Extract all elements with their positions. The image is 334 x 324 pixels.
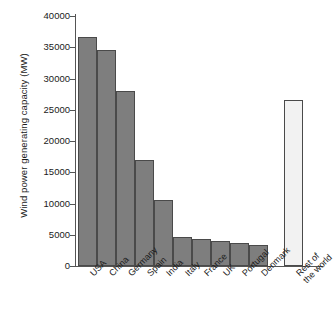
y-tick-label-wrap: 0	[0, 260, 70, 261]
y-tick-label-wrap: 25000	[0, 104, 70, 105]
bar-usa	[78, 37, 97, 266]
y-tick-mark	[70, 266, 75, 267]
y-tick-label-wrap: 20000	[0, 135, 70, 136]
y-tick-label-wrap: 40000	[0, 10, 70, 11]
y-tick-label-wrap: 10000	[0, 198, 70, 199]
bar-rest-of-the-world	[284, 100, 303, 266]
y-tick-label-wrap: 5000	[0, 229, 70, 230]
y-tick-label: 0	[26, 260, 70, 271]
bar-china	[97, 50, 116, 266]
y-tick-label: 10000	[26, 198, 70, 209]
bar-germany	[116, 91, 135, 266]
y-tick-label: 5000	[26, 229, 70, 240]
y-tick-label-wrap: 15000	[0, 166, 70, 167]
y-tick-label: 25000	[26, 104, 70, 115]
y-tick-label-wrap: 30000	[0, 73, 70, 74]
y-tick-label: 40000	[26, 10, 70, 21]
y-tick-label: 15000	[26, 166, 70, 177]
y-tick-label: 30000	[26, 73, 70, 84]
y-tick-label: 35000	[26, 41, 70, 52]
y-tick-label: 20000	[26, 135, 70, 146]
y-tick-label-wrap: 35000	[0, 41, 70, 42]
plot-area	[75, 16, 323, 266]
bar-portugal	[230, 243, 249, 266]
